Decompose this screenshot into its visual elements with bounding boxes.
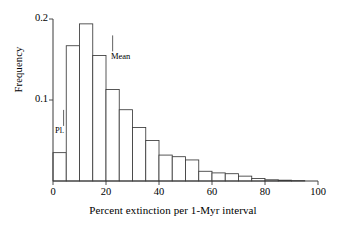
histogram-figure: Frequency 0.2 0.1 0 20 40 60 80 100 Pl. … [0, 0, 346, 228]
histogram-bar [93, 55, 106, 181]
bar-series [53, 24, 305, 181]
histogram-bar [186, 160, 199, 181]
histogram-bar [225, 174, 238, 181]
histogram-bar [53, 153, 66, 181]
histogram-bar [119, 110, 132, 181]
plot-canvas [0, 0, 346, 228]
histogram-bar [80, 24, 93, 181]
histogram-bar [239, 176, 252, 181]
x-axis-title: Percent extinction per 1-Myr interval [0, 204, 346, 216]
histogram-bar [212, 173, 225, 181]
histogram-bar [172, 157, 185, 181]
histogram-bar [133, 128, 146, 181]
histogram-bar [159, 155, 172, 181]
histogram-bar [66, 46, 79, 181]
histogram-bar [146, 141, 159, 182]
histogram-bar [106, 89, 119, 181]
histogram-bar [199, 171, 212, 181]
